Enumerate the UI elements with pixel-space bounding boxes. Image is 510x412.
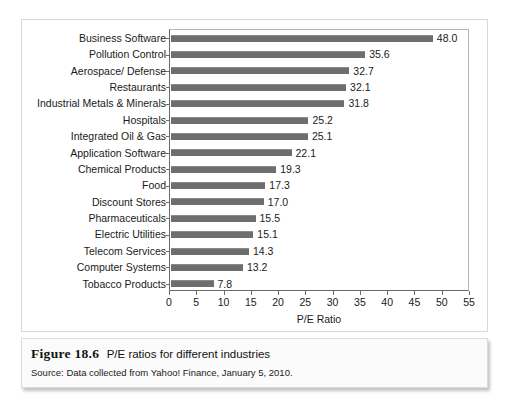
category-label: Business Software xyxy=(79,33,166,44)
bar-row: Chemical Products19.3 xyxy=(170,161,468,177)
x-axis-tick xyxy=(360,291,361,295)
y-axis-tick xyxy=(166,251,170,252)
bar xyxy=(171,51,365,58)
bar-value-label: 48.0 xyxy=(437,33,457,44)
bar xyxy=(171,84,346,91)
bar-row: Telecom Services14.3 xyxy=(170,243,468,259)
x-axis-tick-label: 25 xyxy=(300,297,312,308)
bar-row: Restaurants32.1 xyxy=(170,79,468,95)
y-axis-tick xyxy=(166,169,170,170)
bar-row: Hospitals25.2 xyxy=(170,112,468,128)
bar-row: Industrial Metals & Minerals31.8 xyxy=(170,96,468,112)
bar-value-label: 25.1 xyxy=(312,131,332,142)
y-axis-tick xyxy=(166,87,170,88)
x-axis-tick-label: 55 xyxy=(463,297,475,308)
x-axis-tick-label: 5 xyxy=(193,297,199,308)
bar-row: Aerospace/ Defense32.7 xyxy=(170,63,468,79)
bar-value-label: 17.0 xyxy=(268,197,288,208)
bar xyxy=(171,133,308,140)
y-axis-tick xyxy=(166,153,170,154)
x-axis: P/E Ratio 0510152025303540455055 xyxy=(169,291,469,325)
y-axis-tick xyxy=(166,284,170,285)
bar-row: Computer Systems13.2 xyxy=(170,259,468,275)
bar-value-label: 32.1 xyxy=(350,82,370,93)
category-label: Pollution Control xyxy=(89,49,166,60)
y-axis-tick xyxy=(166,218,170,219)
category-label: Hospitals xyxy=(123,115,166,126)
bar-row: Pollution Control35.6 xyxy=(170,46,468,62)
bar-value-label: 14.3 xyxy=(253,246,273,257)
bar-rows: Business Software48.0Pollution Control35… xyxy=(170,30,468,290)
x-axis-tick-label: 30 xyxy=(327,297,339,308)
bar xyxy=(171,198,264,205)
category-label: Industrial Metals & Minerals xyxy=(37,98,166,109)
bar-value-label: 17.3 xyxy=(269,180,289,191)
y-axis-tick xyxy=(166,55,170,56)
figure-number: Figure 18.6 xyxy=(31,346,107,361)
x-axis-tick xyxy=(169,291,170,295)
x-axis-tick-label: 10 xyxy=(218,297,230,308)
x-axis-tick xyxy=(305,291,306,295)
category-label: Computer Systems xyxy=(77,262,166,273)
category-label: Food xyxy=(142,180,166,191)
y-axis-tick xyxy=(166,104,170,105)
bar-value-label: 19.3 xyxy=(280,164,300,175)
bar xyxy=(171,215,256,222)
bar-value-label: 7.8 xyxy=(218,279,233,290)
x-axis-tick-label: 15 xyxy=(245,297,257,308)
bar-value-label: 25.2 xyxy=(312,115,332,126)
bar-value-label: 32.7 xyxy=(353,66,373,77)
category-label: Integrated Oil & Gas xyxy=(71,131,166,142)
y-axis-tick xyxy=(166,202,170,203)
bar xyxy=(171,100,344,107)
y-axis-tick xyxy=(166,38,170,39)
category-label: Telecom Services xyxy=(84,246,166,257)
category-label: Tobacco Products xyxy=(83,279,166,290)
y-axis-tick xyxy=(166,136,170,137)
bar xyxy=(171,166,276,173)
bar xyxy=(171,117,308,124)
bar-row: Tobacco Products7.8 xyxy=(170,276,468,292)
x-axis-tick xyxy=(442,291,443,295)
bar xyxy=(171,231,253,238)
x-axis-tick-label: 45 xyxy=(409,297,421,308)
figure-caption-card: Figure 18.6 P/E ratios for different ind… xyxy=(21,338,488,388)
figure-title-text: P/E ratios for different industries xyxy=(107,348,270,360)
bar xyxy=(171,67,349,74)
x-axis-tick xyxy=(414,291,415,295)
category-label: Pharmaceuticals xyxy=(88,213,166,224)
bar xyxy=(171,149,292,156)
category-label: Application Software xyxy=(70,148,166,159)
category-label: Restaurants xyxy=(109,82,166,93)
bar xyxy=(171,280,214,287)
bar xyxy=(171,35,433,42)
x-axis-tick xyxy=(387,291,388,295)
figure-source-line: Source: Data collected from Yahoo! Finan… xyxy=(31,367,293,378)
x-axis-tick-label: 50 xyxy=(436,297,448,308)
bar-row: Business Software48.0 xyxy=(170,30,468,46)
category-label: Aerospace/ Defense xyxy=(71,66,166,77)
x-axis-tick xyxy=(224,291,225,295)
bar-value-label: 13.2 xyxy=(247,262,267,273)
y-axis-tick xyxy=(166,186,170,187)
bar xyxy=(171,264,243,271)
x-axis-title: P/E Ratio xyxy=(169,313,469,325)
x-axis-tick xyxy=(196,291,197,295)
x-axis-tick xyxy=(469,291,470,295)
x-axis-tick-label: 0 xyxy=(166,297,172,308)
x-axis-tick-label: 40 xyxy=(381,297,393,308)
y-axis-tick xyxy=(166,235,170,236)
category-label: Electric Utilities xyxy=(95,229,166,240)
x-axis-tick-label: 20 xyxy=(272,297,284,308)
bar-row: Discount Stores17.0 xyxy=(170,194,468,210)
x-axis-tick xyxy=(278,291,279,295)
bar-value-label: 31.8 xyxy=(348,98,368,109)
bar-row: Food17.3 xyxy=(170,177,468,193)
y-axis-tick xyxy=(166,71,170,72)
figure-caption-title: Figure 18.6 P/E ratios for different ind… xyxy=(31,346,270,362)
y-axis-tick xyxy=(166,267,170,268)
bar-value-label: 15.1 xyxy=(257,229,277,240)
x-axis-tick xyxy=(333,291,334,295)
bar-value-label: 22.1 xyxy=(296,148,316,159)
bar-value-label: 15.5 xyxy=(260,213,280,224)
